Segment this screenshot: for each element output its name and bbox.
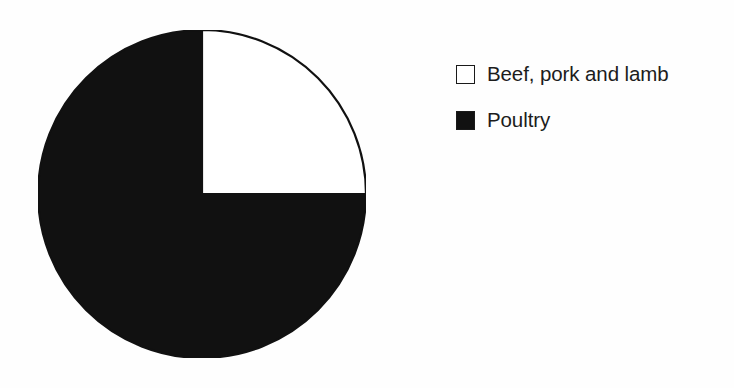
pie-slice-beef-pork-lamb[interactable] bbox=[202, 30, 366, 194]
pie-chart bbox=[38, 30, 366, 358]
chart-legend: Beef, pork and lamb Poultry bbox=[456, 62, 706, 154]
legend-item-label: Poultry bbox=[487, 108, 550, 132]
legend-swatch-filled-icon bbox=[456, 111, 475, 130]
pie-chart-svg bbox=[38, 30, 366, 358]
legend-item-poultry[interactable]: Poultry bbox=[456, 108, 706, 132]
legend-item-label: Beef, pork and lamb bbox=[487, 62, 669, 86]
legend-item-beef-pork-and-lamb[interactable]: Beef, pork and lamb bbox=[456, 62, 706, 86]
legend-swatch-hollow-icon bbox=[456, 65, 475, 84]
pie-chart-figure: Beef, pork and lamb Poultry bbox=[0, 0, 734, 388]
